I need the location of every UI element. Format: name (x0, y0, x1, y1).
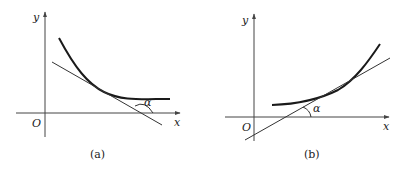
caption-b: (b) (304, 148, 320, 161)
origin-label: O (242, 121, 251, 134)
tangent-line (245, 58, 390, 140)
x-axis-label: x (383, 120, 390, 133)
x-axis-label: x (174, 116, 181, 129)
tangent-line (52, 62, 162, 125)
angle-label: α (144, 96, 152, 109)
origin-label: O (32, 117, 41, 130)
curve (272, 44, 380, 105)
panel-a: α x y O (a) (16, 11, 181, 161)
angle-arc (303, 107, 311, 117)
panel-b: α x y O (b) (225, 14, 390, 161)
curve (59, 38, 170, 99)
angle-label: α (313, 102, 321, 115)
caption-a: (a) (90, 148, 105, 161)
y-axis-label: y (241, 14, 249, 27)
y-axis-label: y (32, 11, 40, 24)
figure: α x y O (a) α x y O (b) (0, 0, 402, 174)
